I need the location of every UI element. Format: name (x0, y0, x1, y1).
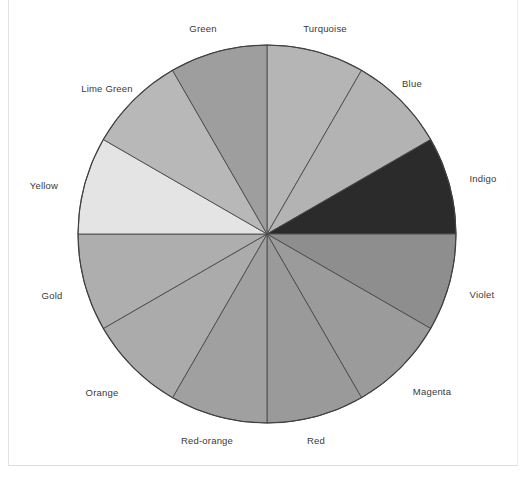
pie-sector-group (78, 45, 456, 423)
sector-label-yellow: Yellow (30, 180, 58, 191)
page-canvas: TurquoiseBlueIndigoVioletMagentaRedRed-o… (0, 0, 525, 481)
sector-label-magenta: Magenta (413, 386, 451, 397)
sector-label-red-orange: Red-orange (181, 435, 233, 446)
sector-label-red: Red (307, 435, 325, 446)
sector-label-turquoise: Turquoise (303, 23, 347, 34)
sector-label-violet: Violet (470, 289, 495, 300)
sector-label-indigo: Indigo (469, 173, 496, 184)
page-bottom-margin (0, 466, 525, 481)
sector-label-blue: Blue (402, 78, 422, 89)
color-wheel-svg (0, 0, 525, 481)
color-wheel-figure: TurquoiseBlueIndigoVioletMagentaRedRed-o… (0, 0, 525, 481)
sector-label-gold: Gold (42, 290, 63, 301)
sector-label-orange: Orange (86, 387, 119, 398)
sector-label-green: Green (189, 23, 216, 34)
sector-label-lime-green: Lime Green (81, 83, 133, 94)
